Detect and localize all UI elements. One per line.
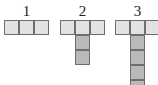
top-square [130,20,145,35]
top-square [115,20,130,35]
figure-label: 2 [75,4,90,19]
figure-label: 1 [19,4,34,19]
top-square [4,20,19,35]
stem-square [130,50,145,65]
top-square [75,20,90,35]
stem-square [130,35,145,50]
stem-square [130,65,145,80]
top-square [19,20,34,35]
figure-label: 3 [130,4,145,19]
stem-square [75,50,90,65]
stem-square [130,80,145,85]
stem-square [75,35,90,50]
top-square [145,20,158,35]
top-square [60,20,75,35]
top-square [34,20,49,35]
top-square [90,20,105,35]
